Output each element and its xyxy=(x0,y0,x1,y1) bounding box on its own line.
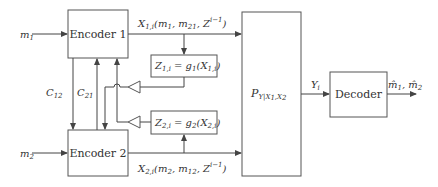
z1-function-block: Z1,i = g1(X1,i) xyxy=(151,55,220,77)
x1-label: X1,i(m1, m21, Zi−1) xyxy=(137,16,227,31)
encoder-2-block: Encoder 2 xyxy=(68,130,128,176)
encoder-1-block: Encoder 1 xyxy=(68,10,128,58)
svg-text:m2: m2 xyxy=(20,148,34,161)
x2-label: X2,i(m2, m12, Zi−1) xyxy=(137,161,227,176)
svg-text:m1: m1 xyxy=(20,29,34,42)
c12-label: C12 xyxy=(46,87,63,100)
c21-label: C21 xyxy=(77,87,94,100)
z1-delay-triangle-icon xyxy=(128,81,140,93)
z2-function-block: Z2,i = g2(X2,i) xyxy=(151,111,220,134)
decoder-block: Decoder xyxy=(330,72,387,117)
decoder-label: Decoder xyxy=(335,88,383,101)
encoder-2-label: Encoder 2 xyxy=(69,147,126,160)
y-label: Yi xyxy=(311,79,320,92)
channel-block: PY|X1,X2 xyxy=(242,12,301,176)
z1-feedback-line xyxy=(140,77,184,87)
input-m1: m1 xyxy=(20,29,67,42)
z2-feedback-to-encoder1 xyxy=(117,59,128,122)
input-m2: m2 xyxy=(20,148,67,161)
two-encoder-feedback-block-diagram: m1 m2 Encoder 1 Encoder 2 C12 C21 X1,i(m… xyxy=(0,0,438,187)
output-label: m̂1, m̂2 xyxy=(388,79,423,92)
encoder-1-label: Encoder 1 xyxy=(69,28,126,41)
z2-delay-triangle-icon xyxy=(128,116,140,128)
